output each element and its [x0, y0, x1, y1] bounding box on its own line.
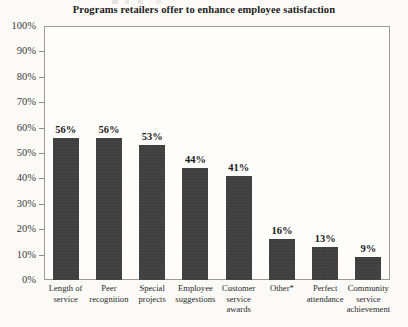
y-axis-tick-label: 60%: [17, 122, 36, 134]
x-axis-category-label: Length ofservice: [41, 283, 90, 304]
x-axis-category-label: Other*: [257, 283, 306, 294]
x-axis-label-line: projects: [128, 294, 177, 305]
bar-value-label: 56%: [55, 124, 76, 136]
x-axis-label-line: Employee: [171, 283, 220, 294]
x-axis-category-label: Peerrecognition: [84, 283, 133, 304]
y-axis-tick-label: 70%: [17, 96, 36, 108]
y-axis: 100%90%80%70%60%50%40%30%20%10%0%: [0, 26, 44, 280]
x-axis-label-line: Peer: [84, 283, 133, 294]
bar-slot: 9%: [347, 26, 390, 280]
bar-value-label: 41%: [228, 162, 249, 174]
x-axis-label-line: Customer: [214, 283, 263, 294]
x-axis-label-line: awards: [214, 304, 263, 315]
bar-slot: 16%: [260, 26, 303, 280]
bar-slot: 56%: [44, 26, 87, 280]
y-axis-tick-label: 30%: [17, 198, 36, 210]
bar-value-label: 9%: [361, 243, 377, 255]
x-axis-category-label: Employeesuggestions: [171, 283, 220, 304]
bar-chart-figure: Programs retailers offer to enhance empl…: [0, 0, 408, 327]
bar-value-label: 56%: [98, 124, 119, 136]
bar-value-label: 44%: [185, 154, 206, 166]
x-axis-category-label: Communityserviceachievement: [344, 283, 393, 315]
bar: [269, 239, 295, 280]
x-axis-category-label: Specialprojects: [128, 283, 177, 304]
x-axis-category-label: Customerserviceawards: [214, 283, 263, 315]
bar: [139, 145, 165, 280]
x-axis-label-line: attendance: [301, 294, 350, 305]
y-axis-tick-label: 20%: [17, 223, 36, 235]
x-axis-label-line: service: [41, 294, 90, 305]
x-axis-label-line: Length of: [41, 283, 90, 294]
bar-slot: 13%: [304, 26, 347, 280]
x-axis-label-line: Community: [344, 283, 393, 294]
bar-value-label: 53%: [142, 131, 163, 143]
bar: [182, 168, 208, 280]
x-axis-label-line: achievement: [344, 304, 393, 315]
y-axis-tick-label: 90%: [17, 45, 36, 57]
y-axis-tick-label: 0%: [22, 274, 36, 286]
x-axis-label-line: Other*: [257, 283, 306, 294]
x-axis-label-line: Special: [128, 283, 177, 294]
bar-slot: 44%: [174, 26, 217, 280]
bar: [355, 257, 381, 280]
chart-title: Programs retailers offer to enhance empl…: [0, 4, 408, 16]
bar-slot: 41%: [217, 26, 260, 280]
x-axis-labels: Length ofservicePeerrecognitionSpecialpr…: [44, 283, 390, 327]
bar-slot: 53%: [131, 26, 174, 280]
bar: [312, 247, 338, 280]
bar-value-label: 16%: [271, 225, 292, 237]
y-axis-tick-label: 40%: [17, 172, 36, 184]
bar: [96, 138, 122, 280]
bar: [53, 138, 79, 280]
bar-value-label: 13%: [315, 233, 336, 245]
bar-slot: 56%: [87, 26, 130, 280]
x-axis-label-line: service: [214, 294, 263, 305]
y-axis-tick-label: 100%: [12, 20, 37, 32]
y-axis-tick-label: 10%: [17, 249, 36, 261]
x-axis-label-line: suggestions: [171, 294, 220, 305]
x-axis-category-label: Perfectattendance: [301, 283, 350, 304]
y-axis-tick-label: 80%: [17, 71, 36, 83]
x-axis-label-line: Perfect: [301, 283, 350, 294]
bar: [226, 176, 252, 280]
x-axis-label-line: recognition: [84, 294, 133, 305]
y-axis-tick-label: 50%: [17, 147, 36, 159]
x-axis-label-line: service: [344, 294, 393, 305]
bars-layer: 56%56%53%44%41%16%13%9%: [44, 26, 390, 280]
